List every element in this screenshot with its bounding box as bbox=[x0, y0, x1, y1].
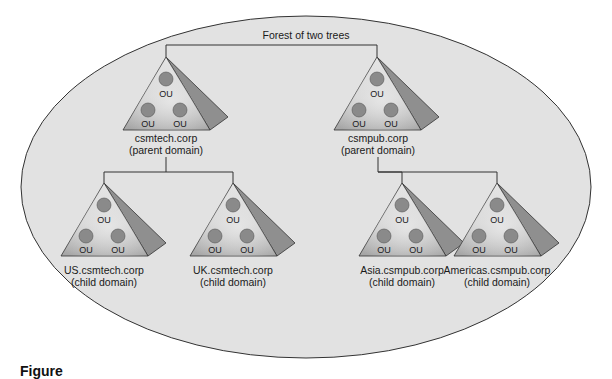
domain-name: Americas.csmpub.corp bbox=[444, 264, 551, 276]
ou-label: OU bbox=[377, 245, 391, 255]
domain-role: (child domain) bbox=[444, 276, 551, 288]
diagram-title: Forest of two trees bbox=[263, 29, 350, 41]
ou-label: OU bbox=[79, 245, 93, 255]
ou-label: OU bbox=[111, 245, 125, 255]
ou-label: OU bbox=[240, 245, 254, 255]
domain-label-csmpub: csmpub.corp (parent domain) bbox=[341, 132, 415, 156]
ou-label: OU bbox=[472, 245, 486, 255]
ou-label: OU bbox=[395, 215, 409, 225]
ou-label: OU bbox=[173, 119, 187, 129]
domain-name: UK.csmtech.corp bbox=[193, 264, 273, 276]
figure-caption: Figure bbox=[20, 363, 63, 379]
domain-label-csmtech: csmtech.corp (parent domain) bbox=[129, 132, 203, 156]
ou-label: OU bbox=[352, 119, 366, 129]
ou-label: OU bbox=[208, 245, 222, 255]
ou-label: OU bbox=[97, 215, 111, 225]
domain-role: (child domain) bbox=[64, 276, 144, 288]
ou-label: OU bbox=[370, 89, 384, 99]
domain-label-us: US.csmtech.corp (child domain) bbox=[64, 264, 144, 288]
domain-name: csmpub.corp bbox=[341, 132, 415, 144]
ou-label: OU bbox=[490, 215, 504, 225]
domain-role: (parent domain) bbox=[341, 144, 415, 156]
ou-label: OU bbox=[159, 89, 173, 99]
domain-role: (parent domain) bbox=[129, 144, 203, 156]
ou-label: OU bbox=[384, 119, 398, 129]
ou-label: OU bbox=[504, 245, 518, 255]
ou-label: OU bbox=[409, 245, 423, 255]
domain-role: (child domain) bbox=[360, 276, 443, 288]
domain-name: Asia.csmpub.corp bbox=[360, 264, 443, 276]
domain-label-americas: Americas.csmpub.corp (child domain) bbox=[444, 264, 551, 288]
domain-label-uk: UK.csmtech.corp (child domain) bbox=[193, 264, 273, 288]
domain-label-asia: Asia.csmpub.corp (child domain) bbox=[360, 264, 443, 288]
ou-label: OU bbox=[226, 215, 240, 225]
domain-name: csmtech.corp bbox=[129, 132, 203, 144]
ou-label: OU bbox=[141, 119, 155, 129]
domain-role: (child domain) bbox=[193, 276, 273, 288]
domain-name: US.csmtech.corp bbox=[64, 264, 144, 276]
